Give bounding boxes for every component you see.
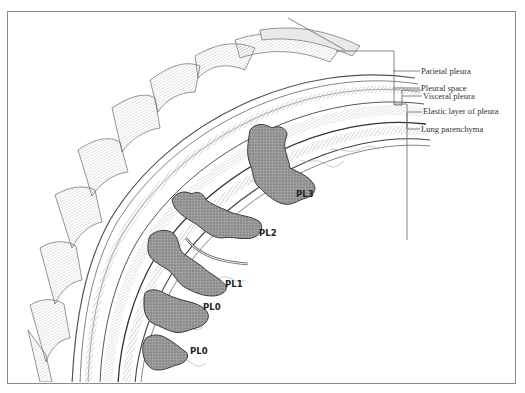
label-pl0-lower: PL0 xyxy=(190,346,208,356)
tumor-pl0-lower xyxy=(143,335,188,370)
label-parietal-pleura: Parietal pleura xyxy=(421,66,471,76)
pleura-illustration xyxy=(0,0,525,393)
label-visceral-pleura: Visceral pleura xyxy=(423,91,475,101)
label-pl2: PL2 xyxy=(259,228,277,238)
label-pl3: PL3 xyxy=(296,189,314,199)
label-lung-parenchyma: Lung parenchyma xyxy=(421,124,483,134)
label-pl0-upper: PL0 xyxy=(203,302,221,312)
tumor-pl0-upper xyxy=(144,290,208,333)
label-pl1: PL1 xyxy=(225,279,243,289)
label-elastic-layer: Elastic layer of pleura xyxy=(423,106,499,116)
anatomy-layers xyxy=(28,18,430,384)
